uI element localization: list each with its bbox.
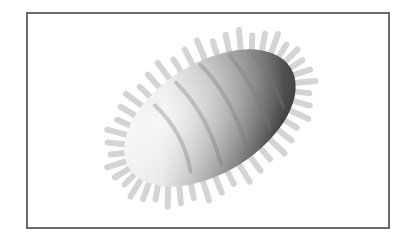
organism-illustration xyxy=(0,0,419,238)
organism xyxy=(74,0,343,238)
